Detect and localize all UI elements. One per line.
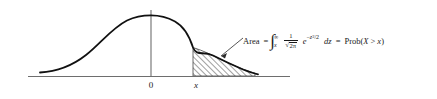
fraction-denominator: √ 2π	[284, 42, 297, 50]
area-formula-annotation: Area = ∫ ∞ x 1 √ 2π e − z 2 /2 dz = Prob	[243, 33, 384, 49]
differential-dz: dz	[324, 37, 332, 46]
integral-expression: ∫ ∞ x	[270, 33, 278, 49]
exponent-over-two: /2	[314, 34, 319, 40]
prob-random-variable: X	[363, 37, 368, 46]
fraction-numerator: 1	[288, 33, 293, 40]
probability-label: Prob	[344, 37, 360, 46]
normalizing-fraction: 1 √ 2π	[284, 33, 297, 49]
plot-canvas	[0, 0, 437, 99]
prob-close-paren: )	[381, 37, 384, 46]
sqrt-radicand: 2π	[289, 42, 297, 50]
greater-than-sign: >	[371, 37, 376, 46]
exponential-term: e − z 2 /2	[303, 37, 319, 46]
equals-sign-second: =	[336, 37, 341, 46]
area-word: Area	[243, 37, 260, 46]
integral-lower-limit: x	[274, 42, 278, 48]
x-axis-tick-label-zero: 0	[141, 80, 161, 90]
normal-distribution-figure: 0 x Area = ∫ ∞ x 1 √ 2π e − z 2 /2 dz	[0, 0, 437, 99]
annotation-leader-line	[221, 38, 243, 56]
equals-sign-first: =	[264, 37, 269, 46]
integral-upper-limit: ∞	[274, 34, 278, 40]
x-axis-tick-label-x: x	[186, 80, 206, 90]
